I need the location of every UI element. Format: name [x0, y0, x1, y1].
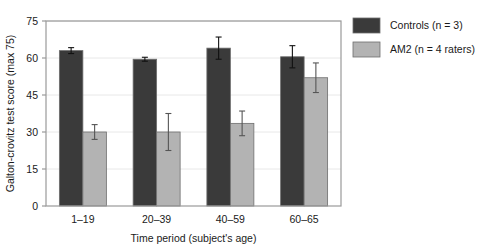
- legend-swatch: [353, 18, 380, 33]
- bar-chart: 01530456075Galton-crovitz test score (ma…: [0, 0, 482, 247]
- y-tick-label: 45: [26, 89, 38, 101]
- legend-label: AM2 (n = 4 raters): [390, 43, 475, 55]
- legend-label: Controls (n = 3): [390, 19, 463, 31]
- chart-container: 01530456075Galton-crovitz test score (ma…: [0, 0, 482, 247]
- bar: [281, 57, 305, 206]
- y-tick-label: 30: [26, 126, 38, 138]
- x-tick-label: 20–39: [142, 213, 171, 225]
- bar: [304, 78, 328, 206]
- x-tick-label: 1–19: [71, 213, 95, 225]
- legend-swatch: [353, 42, 380, 57]
- x-tick-label: 40–59: [216, 213, 245, 225]
- x-axis-title: Time period (subject's age): [131, 232, 257, 244]
- y-axis-title: Galton-crovitz test score (max 75): [4, 35, 16, 193]
- y-tick-label: 60: [26, 52, 38, 64]
- bar: [207, 48, 231, 206]
- bar: [59, 51, 83, 206]
- bar: [133, 59, 157, 206]
- y-tick-label: 0: [32, 200, 38, 212]
- y-tick-label: 75: [26, 15, 38, 27]
- bar: [83, 132, 107, 206]
- x-tick-label: 60–65: [290, 213, 319, 225]
- y-tick-label: 15: [26, 163, 38, 175]
